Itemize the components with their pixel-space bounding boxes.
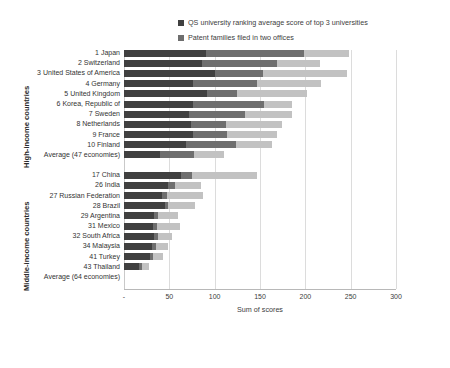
bar-segment-2 <box>142 263 149 270</box>
row-label: 28 Brazil <box>0 202 124 210</box>
x-axis-tick-labels: -50100150200250300 <box>0 292 450 304</box>
bar-segment-2 <box>175 182 201 189</box>
stacked-bar <box>124 212 450 219</box>
bar-segment-2 <box>156 243 169 250</box>
bar-segment-0 <box>124 90 207 97</box>
x-tick-label: 150 <box>254 292 266 301</box>
bar-segment-2 <box>277 60 320 67</box>
legend-label-qs: QS university ranking average score of t… <box>188 19 368 27</box>
bar-segment-1 <box>191 121 226 128</box>
bar-segment-2 <box>304 50 349 57</box>
bar-segment-0 <box>124 50 206 57</box>
chart-row: 41 Turkey <box>0 252 450 262</box>
chart-row: 10 Finland <box>0 140 450 150</box>
bar-segment-1 <box>181 172 192 179</box>
legend-item-patent: Patent families filed in two offices <box>178 31 438 44</box>
bar-segment-1 <box>186 141 236 148</box>
row-label: 3 United States of America <box>0 69 124 77</box>
chart-row: 2 Switzerland <box>0 58 450 68</box>
chart-container: QS university ranking average score of t… <box>0 0 450 368</box>
bar-segment-0 <box>124 151 160 158</box>
chart-row: 32 South Africa <box>0 231 450 241</box>
row-label: 4 Germany <box>0 80 124 88</box>
row-label: 6 Korea, Republic of <box>0 100 124 108</box>
bar-segment-0 <box>124 141 186 148</box>
x-tick-label: 200 <box>299 292 311 301</box>
x-axis-line <box>124 289 396 290</box>
bar-segment-2 <box>194 151 224 158</box>
bar-segment-0 <box>124 202 165 209</box>
row-label: 27 Russian Federation <box>0 192 124 200</box>
chart-row: 4 Germany <box>0 79 450 89</box>
x-tick-label: - <box>123 292 125 301</box>
legend-swatch-qs <box>178 20 184 26</box>
chart-row: Average (47 economies) <box>0 150 450 160</box>
row-label: Average (64 economies) <box>0 273 124 281</box>
stacked-bar <box>124 151 450 158</box>
legend-swatch-patent <box>178 35 184 41</box>
x-axis-title: Sum of scores <box>124 305 396 314</box>
row-label: 29 Argentina <box>0 212 124 220</box>
bar-segment-1 <box>189 111 244 118</box>
bar-segment-1 <box>202 60 277 67</box>
stacked-bar <box>124 121 450 128</box>
stacked-bar <box>124 141 450 148</box>
row-label: 9 France <box>0 131 124 139</box>
chart-row: 9 France <box>0 130 450 140</box>
stacked-bar <box>124 131 450 138</box>
stacked-bar <box>124 50 450 57</box>
x-tick-label: 50 <box>165 292 173 301</box>
stacked-bar <box>124 90 450 97</box>
x-tick-label: 250 <box>345 292 357 301</box>
bar-segment-1 <box>193 131 227 138</box>
bar-segment-2 <box>263 70 347 77</box>
bar-segment-0 <box>124 172 181 179</box>
bar-segment-1 <box>168 182 175 189</box>
row-label: 2 Switzerland <box>0 59 124 67</box>
bar-segment-2 <box>167 192 203 199</box>
bar-segment-0 <box>124 243 152 250</box>
bar-segment-1 <box>193 101 264 108</box>
stacked-bar <box>124 202 450 209</box>
chart-row: 6 Korea, Republic of <box>0 99 450 109</box>
chart-row: 8 Netherlands <box>0 119 450 129</box>
bar-segment-1 <box>207 90 237 97</box>
bar-segment-2 <box>227 131 277 138</box>
chart-row: Average (64 economies) <box>0 272 450 282</box>
row-label: 7 Sweden <box>0 110 124 118</box>
row-label: 32 South Africa <box>0 232 124 240</box>
chart-row: 28 Brazil <box>0 201 450 211</box>
legend-item-qs: QS university ranking average score of t… <box>178 16 438 29</box>
row-label: 41 Turkey <box>0 253 124 261</box>
chart-row: 29 Argentina <box>0 211 450 221</box>
chart-row: 26 India <box>0 180 450 190</box>
stacked-bar <box>124 263 450 270</box>
x-tick-label: 100 <box>209 292 221 301</box>
bar-segment-0 <box>124 253 150 260</box>
bar-segment-0 <box>124 101 193 108</box>
bar-segment-0 <box>124 263 139 270</box>
row-label: 10 Finland <box>0 141 124 149</box>
bar-segment-0 <box>124 192 162 199</box>
stacked-bar <box>124 182 450 189</box>
stacked-bar <box>124 70 450 77</box>
bar-segment-0 <box>124 223 153 230</box>
stacked-bar <box>124 253 450 260</box>
bar-segment-2 <box>236 141 272 148</box>
bar-segment-2 <box>226 121 281 128</box>
bar-segment-0 <box>124 131 193 138</box>
bar-segment-2 <box>257 80 320 87</box>
chart-row: 27 Russian Federation <box>0 190 450 200</box>
stacked-bar <box>124 223 450 230</box>
row-label: 1 Japan <box>0 49 124 57</box>
bar-segment-1 <box>215 70 263 77</box>
bar-segment-0 <box>124 111 189 118</box>
row-label: 31 Mexico <box>0 222 124 230</box>
bar-segment-2 <box>264 101 292 108</box>
row-label: 8 Netherlands <box>0 120 124 128</box>
bar-segment-2 <box>158 233 173 240</box>
bar-segment-0 <box>124 121 191 128</box>
chart-row: 31 Mexico <box>0 221 450 231</box>
stacked-bar <box>124 243 450 250</box>
group-spacer <box>0 160 450 170</box>
